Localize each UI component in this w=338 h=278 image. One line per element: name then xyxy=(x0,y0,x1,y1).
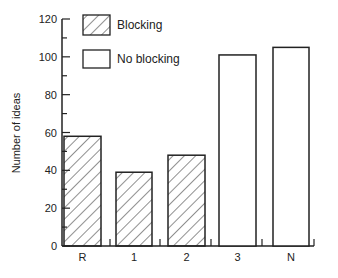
legend: BlockingNo blocking xyxy=(83,15,180,68)
y-tick-label: 120 xyxy=(39,13,57,25)
bar-N xyxy=(273,47,309,246)
legend-swatch xyxy=(83,50,110,68)
bar-R xyxy=(64,136,101,246)
bars xyxy=(64,47,309,246)
y-tick-label: 40 xyxy=(45,164,57,176)
x-tick-label: 2 xyxy=(183,251,189,263)
y-tick-label: 60 xyxy=(45,127,57,139)
y-tick-label: 0 xyxy=(51,240,57,252)
y-tick-label: 20 xyxy=(45,202,57,214)
legend-swatch xyxy=(83,15,110,35)
x-tick-label: 1 xyxy=(131,251,137,263)
y-axis-title: Number of ideas xyxy=(10,92,22,173)
bar-chart: 020406080100120 R123N BlockingNo blockin… xyxy=(0,0,338,278)
legend-label: Blocking xyxy=(117,18,162,32)
bar-2 xyxy=(168,155,205,246)
x-tick-label: R xyxy=(79,251,87,263)
bar-1 xyxy=(116,172,152,246)
x-tick-label: N xyxy=(287,251,295,263)
x-tick-label: 3 xyxy=(234,251,240,263)
legend-label: No blocking xyxy=(117,52,180,66)
y-tick-label: 100 xyxy=(39,51,57,63)
bar-3 xyxy=(219,55,256,246)
y-tick-label: 80 xyxy=(45,89,57,101)
